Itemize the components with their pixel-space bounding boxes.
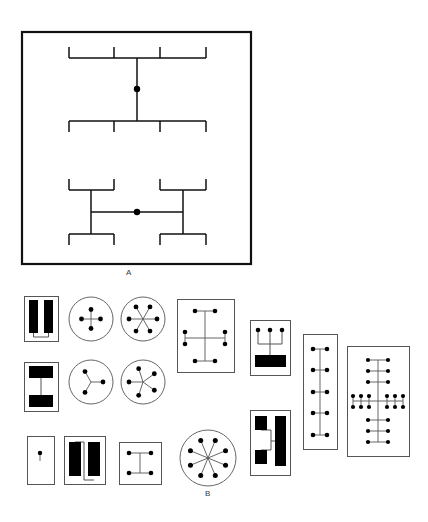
panel-b-item-radial-star-4	[66, 294, 114, 342]
node-dot	[280, 328, 285, 333]
node-dot	[325, 390, 330, 395]
radial-star-5-svg	[118, 357, 166, 405]
panel-b-item-tall-pair-bar-block	[62, 434, 107, 486]
node-dot	[311, 368, 316, 373]
figure-root: A B	[0, 0, 428, 522]
node-dot	[325, 368, 330, 373]
node-dot	[127, 471, 132, 476]
panel-b-item-radial-star-8	[177, 427, 237, 487]
panel-b-item-stacked-bar-block	[22, 360, 60, 413]
star-node	[89, 326, 94, 331]
panel-b-label: B	[202, 489, 214, 499]
star-node	[89, 307, 94, 312]
radial-star-3-svg	[66, 357, 114, 405]
star-node	[188, 448, 193, 453]
node-dot	[183, 330, 188, 335]
panel-b	[0, 0, 428, 522]
star-node	[136, 366, 141, 371]
node-dot	[183, 342, 188, 347]
node-dot	[386, 369, 390, 373]
star-node	[83, 369, 88, 374]
star-node	[134, 329, 139, 334]
node-dot	[366, 358, 370, 362]
node-dot	[393, 394, 397, 398]
panel-b-item-ladder-array-5	[301, 332, 339, 451]
panel-b-item-radial-star-6	[118, 294, 166, 342]
node-dot	[311, 433, 316, 438]
star-node	[155, 317, 160, 322]
node-dot	[325, 347, 330, 352]
node-dot	[311, 347, 316, 352]
filled-bar	[29, 395, 53, 407]
panel-b-item-bracket-tree-mirror	[175, 297, 236, 374]
node-dot	[213, 359, 218, 364]
ladder-array-5-svg	[301, 332, 339, 451]
three-dots-to-bar-svg	[248, 318, 292, 377]
star-node	[223, 448, 228, 453]
panel-b-item-L-bar-block	[248, 408, 292, 477]
star-node	[127, 380, 132, 385]
bracket-tree-mirror-svg	[175, 297, 236, 374]
node-dot	[223, 330, 228, 335]
tall-pair-bar-block-svg	[62, 434, 107, 486]
node-dot	[386, 380, 390, 384]
panel-b-item-radial-star-5	[118, 357, 166, 405]
node-dot	[367, 405, 371, 409]
star-node	[134, 304, 139, 309]
node-dot	[359, 405, 363, 409]
star-node	[98, 317, 103, 322]
star-node	[101, 380, 106, 385]
filled-bar	[255, 416, 267, 430]
radial-star-6-svg	[118, 294, 166, 342]
node-dot	[385, 394, 389, 398]
node-dot	[325, 433, 330, 438]
node-dot	[386, 358, 390, 362]
node-dot	[223, 342, 228, 347]
node-dot	[366, 380, 370, 384]
node-dot	[149, 451, 154, 456]
node-dot	[268, 328, 273, 333]
panel-b-item-h-bracket-box	[117, 440, 163, 486]
node-dot	[311, 411, 316, 416]
node-dot	[393, 405, 397, 409]
h-bracket-box-svg	[117, 440, 163, 486]
L-bar-block-svg	[248, 408, 292, 477]
node-dot	[366, 440, 370, 444]
star-node	[127, 317, 132, 322]
star-node	[213, 473, 218, 478]
star-node	[188, 463, 193, 468]
node-dot	[311, 390, 316, 395]
filled-bar	[275, 416, 286, 466]
star-node	[198, 473, 203, 478]
panel-b-item-radial-star-3	[66, 357, 114, 405]
filled-bar	[88, 442, 100, 476]
filled-bar	[29, 300, 38, 333]
panel-b-item-single-node-box	[25, 434, 56, 486]
node-dot	[366, 429, 370, 433]
node-dot	[256, 328, 261, 333]
node-dot	[366, 369, 370, 373]
star-node	[198, 438, 203, 443]
star-node	[152, 371, 157, 376]
node-dot	[213, 309, 218, 314]
dense-bracket-tree-svg	[345, 344, 411, 458]
filled-bar	[255, 450, 267, 464]
filled-bar	[255, 355, 286, 367]
node-dot	[367, 394, 371, 398]
node-dot	[193, 359, 198, 364]
radial-star-8-svg	[177, 427, 237, 487]
node-dot	[401, 405, 405, 409]
node-dot	[193, 309, 198, 314]
node-dot	[127, 451, 132, 456]
node-dot	[385, 405, 389, 409]
node-dot	[325, 411, 330, 416]
node-dot	[359, 394, 363, 398]
stacked-bar-block-svg	[22, 360, 60, 413]
node-dot	[386, 418, 390, 422]
panel-b-item-dense-bracket-tree	[345, 344, 411, 458]
node-dot	[386, 440, 390, 444]
star-node	[223, 463, 228, 468]
filled-bar	[44, 300, 53, 333]
panel-b-item-three-dots-to-bar	[248, 318, 292, 377]
double-bar-block-svg	[22, 294, 60, 343]
